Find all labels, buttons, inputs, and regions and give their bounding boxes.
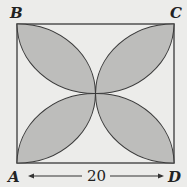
petal-bottom-right	[96, 93, 175, 163]
vertex-label-a: A	[6, 168, 20, 186]
petal-bottom-left	[17, 93, 96, 163]
geometry-figure: B C A D 20	[0, 0, 187, 187]
vertex-label-c: C	[170, 4, 182, 22]
vertex-label-d: D	[167, 168, 181, 186]
dimension-label: 20	[87, 167, 106, 185]
petal-top-right	[96, 24, 175, 94]
vertex-label-b: B	[9, 4, 23, 22]
petal-top-left	[17, 24, 96, 94]
